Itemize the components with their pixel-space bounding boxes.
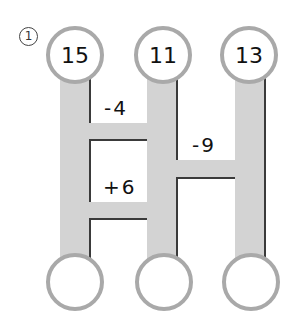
- bottom-circle-2[interactable]: [135, 253, 193, 311]
- edge: [89, 78, 91, 123]
- right-column: [235, 70, 266, 270]
- edge: [89, 139, 147, 141]
- rung-3: [90, 202, 148, 218]
- edge: [176, 177, 235, 179]
- rung-label-3: +6: [103, 175, 136, 199]
- edge: [264, 78, 266, 258]
- rung-1: [90, 123, 148, 139]
- edge: [176, 177, 178, 259]
- bottom-circle-1[interactable]: [46, 253, 104, 311]
- middle-column: [147, 70, 178, 270]
- rung-label-2: -9: [192, 133, 216, 157]
- top-circle-2: 11: [134, 26, 192, 84]
- rung-label-1: -4: [104, 96, 128, 120]
- top-circle-1: 15: [46, 26, 104, 84]
- edge: [89, 218, 147, 220]
- edge: [176, 78, 178, 160]
- problem-number: 1: [19, 27, 38, 46]
- top-circle-3: 13: [220, 26, 278, 84]
- edge: [89, 218, 91, 258]
- bottom-circle-3[interactable]: [222, 253, 280, 311]
- edge: [89, 139, 91, 202]
- rung-2: [177, 160, 236, 177]
- left-column: [60, 70, 91, 270]
